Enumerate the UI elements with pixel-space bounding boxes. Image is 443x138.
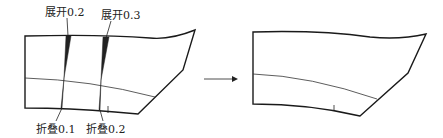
before-outline [25, 30, 195, 114]
label-open-1: 展开0.2 [45, 6, 85, 19]
label-fold-2: 折叠0.2 [86, 122, 126, 136]
leader-open-1 [67, 18, 68, 36]
pattern-after [253, 32, 426, 116]
pattern-diagram: 展开0.2 展开0.3 折叠0.1 折叠0.2 [0, 0, 443, 138]
before-guide-line [25, 78, 155, 97]
label-open-2: 展开0.3 [101, 9, 141, 22]
label-fold-1: 折叠0.1 [36, 122, 76, 136]
after-outline [253, 32, 426, 116]
transform-arrow [204, 76, 238, 82]
wedge-2 [99, 37, 109, 110]
after-guide-line [253, 74, 377, 99]
leader-fold-1 [56, 108, 62, 121]
wedge-1 [61, 36, 71, 108]
pattern-before: 展开0.2 展开0.3 折叠0.1 折叠0.2 [25, 6, 195, 136]
